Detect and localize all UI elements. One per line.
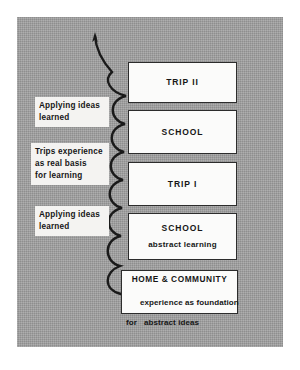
- stage-box-home-community[interactable]: HOME & COMMUNITY experience as foundatio…: [121, 270, 238, 314]
- diagram-figure: TRIP II SCHOOL TRIP I SCHOOL abstract le…: [0, 0, 300, 370]
- annotation-applying-ideas-bottom: Applying ideas learned: [35, 206, 109, 236]
- stage-box-trip-1[interactable]: TRIP I: [128, 162, 237, 206]
- stage-box-school-2[interactable]: SCHOOL: [128, 110, 237, 154]
- stage-title: TRIP I: [168, 179, 197, 189]
- stage-title: SCHOOL: [162, 127, 204, 137]
- stage-box-trip-2[interactable]: TRIP II: [128, 62, 237, 103]
- stage-subtitle-line-2: for abstract ideas: [126, 318, 237, 328]
- annotation-applying-ideas-top: Applying ideas learned: [35, 97, 109, 127]
- stage-box-school-1[interactable]: SCHOOL abstract learning: [128, 213, 237, 260]
- stage-title: HOME & COMMUNITY: [132, 275, 227, 285]
- stage-subtitle-line-1: experience as foundation: [140, 298, 239, 307]
- stage-title: SCHOOL: [162, 223, 204, 233]
- stage-subtitle: experience as foundation for abstract id…: [122, 288, 237, 348]
- stage-title: TRIP II: [166, 77, 199, 87]
- annotation-trips-experience: Trips experience as real basis for learn…: [31, 143, 109, 185]
- stage-subtitle: abstract learning: [148, 240, 217, 250]
